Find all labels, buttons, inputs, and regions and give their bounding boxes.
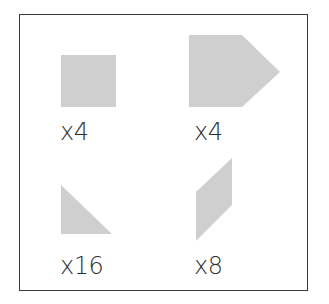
right-triangle-shape <box>61 185 112 234</box>
parallelogram-shape <box>196 158 232 241</box>
shapes-canvas <box>0 0 329 304</box>
square-shape <box>61 55 116 107</box>
figure: x4 x4 x16 x8 <box>0 0 329 304</box>
parallelogram-count-label: x8 <box>194 254 222 278</box>
square-count-label: x4 <box>60 120 88 144</box>
triangle-count-label: x16 <box>60 254 103 278</box>
pentagon-count-label: x4 <box>194 120 222 144</box>
pentagon-shape <box>189 35 280 107</box>
